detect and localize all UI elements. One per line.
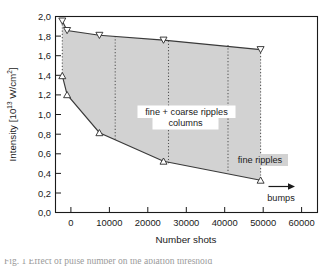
annotation-fine-coarse-ripples: fine + coarse ripples xyxy=(138,106,236,119)
x-tick-label: 0 xyxy=(68,217,73,228)
figure-caption-text: Fig. 1 Effect of pulse number on the abl… xyxy=(0,259,335,266)
x-tick-label: 50000 xyxy=(250,217,276,228)
annotation-columns-label: columns xyxy=(168,118,203,128)
y-tick-label: 0,2 xyxy=(38,188,51,199)
bumps-arrow xyxy=(269,183,296,189)
y-axis-title-middle: W/cm xyxy=(7,74,18,102)
x-tick-label: 20000 xyxy=(135,217,161,228)
x-tick-label: 40000 xyxy=(212,217,238,228)
annotation-fine-ripples-label: fine ripples xyxy=(238,155,283,165)
shaded-process-window xyxy=(62,21,260,180)
chart-figure: 0,0 0,2 0,4 0,6 0,8 1,0 1,2 1,4 1,6 1,8 … xyxy=(0,0,335,267)
y-tick-label: 0,8 xyxy=(38,129,51,140)
chart-svg: 0,0 0,2 0,4 0,6 0,8 1,0 1,2 1,4 1,6 1,8 … xyxy=(0,0,335,267)
x-axis-ticks xyxy=(71,207,302,213)
y-axis-title-suffix: ] xyxy=(7,67,18,70)
y-tick-label: 1,6 xyxy=(38,50,51,61)
y-tick-labels: 0,0 0,2 0,4 0,6 0,8 1,0 1,2 1,4 1,6 1,8 … xyxy=(38,11,51,218)
marker-triangle-down xyxy=(59,18,66,24)
x-tick-labels: 0 10000 20000 30000 40000 50000 60000 xyxy=(68,217,314,228)
y-axis-title: Intensity [1013 W/cm2] xyxy=(6,67,18,161)
y-tick-label: 1,2 xyxy=(38,89,51,100)
svg-text:Intensity [1013 W/cm2]: Intensity [1013 W/cm2] xyxy=(6,67,18,161)
x-axis-title: Number shots xyxy=(156,234,217,245)
annotation-columns: columns xyxy=(153,118,219,130)
x-tick-label: 60000 xyxy=(289,217,315,228)
annotation-fine-coarse-ripples-label: fine + coarse ripples xyxy=(145,107,228,117)
y-tick-label: 1,0 xyxy=(38,109,51,120)
annotation-fine-ripples: fine ripples xyxy=(232,154,288,166)
annotation-bumps-label: bumps xyxy=(267,193,295,203)
y-axis-ticks xyxy=(56,17,62,213)
y-tick-label: 2,0 xyxy=(38,11,51,22)
y-tick-label: 0,4 xyxy=(38,168,51,179)
y-tick-label: 1,4 xyxy=(38,70,51,81)
y-axis-title-prefix: Intensity [10 xyxy=(7,108,18,161)
y-tick-label: 0,0 xyxy=(38,207,51,218)
x-tick-label: 30000 xyxy=(173,217,199,228)
figure-caption-partial: Fig. 1 Effect of pulse number on the abl… xyxy=(0,259,335,267)
y-tick-label: 0,6 xyxy=(38,148,51,159)
y-tick-label: 1,8 xyxy=(38,31,51,42)
x-tick-label: 10000 xyxy=(96,217,122,228)
